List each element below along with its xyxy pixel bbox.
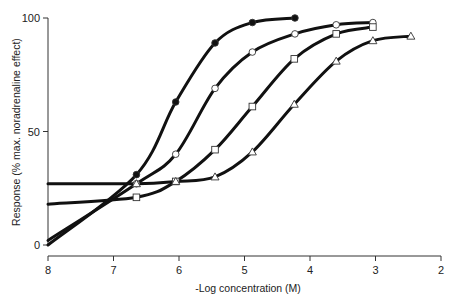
x-tick-7: 7 xyxy=(110,264,116,276)
open-circle-marker xyxy=(249,49,256,56)
filled-circle-marker xyxy=(249,19,256,26)
open-square-marker xyxy=(370,24,377,31)
curve-open-circle xyxy=(48,23,373,241)
curve-filled-circle xyxy=(48,18,295,245)
x-axis: 8765432 -Log concentration (M) xyxy=(45,256,444,294)
y-axis: 100 50 0 Response (% max. noradrenaline … xyxy=(10,12,48,251)
open-square-marker xyxy=(249,103,256,110)
curves xyxy=(48,18,411,245)
open-circle-marker xyxy=(172,151,179,158)
open-circle-marker xyxy=(333,22,340,29)
x-tick-4: 4 xyxy=(307,264,313,276)
open-circle-marker xyxy=(212,85,219,92)
y-tick-0: 0 xyxy=(34,239,40,251)
filled-circle-marker xyxy=(172,99,179,106)
filled-circle-marker xyxy=(292,15,299,22)
open-square-marker xyxy=(212,146,219,153)
open-square-marker xyxy=(333,31,340,38)
dose-response-chart: 100 50 0 Response (% max. noradrenaline … xyxy=(0,0,456,301)
y-tick-100: 100 xyxy=(22,12,40,24)
y-tick-50: 50 xyxy=(28,126,40,138)
y-axis-title: Response (% max. noradrenaline effect) xyxy=(10,38,22,226)
open-circle-marker xyxy=(292,31,299,38)
open-square-marker xyxy=(291,56,298,63)
x-tick-3: 3 xyxy=(372,264,378,276)
x-axis-title: -Log concentration (M) xyxy=(195,282,301,294)
x-tick-8: 8 xyxy=(45,264,51,276)
filled-circle-marker xyxy=(133,171,140,178)
filled-circle-marker xyxy=(212,40,219,47)
open-square-marker xyxy=(133,194,140,201)
x-tick-6: 6 xyxy=(176,264,182,276)
x-tick-5: 5 xyxy=(241,264,247,276)
curve-open-triangle xyxy=(48,36,411,184)
x-tick-2: 2 xyxy=(438,264,444,276)
